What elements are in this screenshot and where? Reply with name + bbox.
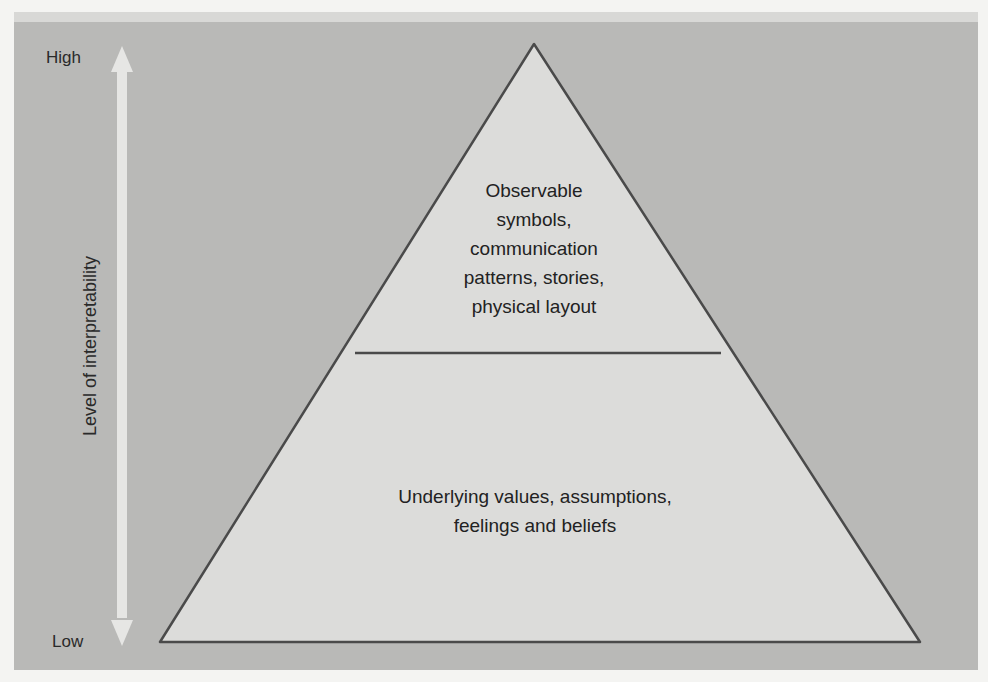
top-tier-line: communication bbox=[424, 234, 644, 263]
bottom-tier-text: Underlying values, assumptions, feelings… bbox=[370, 482, 700, 540]
top-tier-line: Observable bbox=[424, 176, 644, 205]
double-arrow-icon bbox=[111, 46, 133, 646]
top-tier-text: Observable symbols, communication patter… bbox=[424, 176, 644, 321]
pyramid-diagram bbox=[0, 0, 988, 682]
bottom-tier-line: feelings and beliefs bbox=[370, 511, 700, 540]
top-tier-line: symbols, bbox=[424, 205, 644, 234]
pyramid-triangle bbox=[160, 44, 920, 642]
axis-low-label: Low bbox=[52, 632, 83, 652]
top-tier-line: patterns, stories, bbox=[424, 263, 644, 292]
axis-high-label: High bbox=[46, 48, 81, 68]
top-tier-line: physical layout bbox=[424, 292, 644, 321]
axis-title: Level of interpretability bbox=[80, 256, 101, 436]
bottom-tier-line: Underlying values, assumptions, bbox=[370, 482, 700, 511]
